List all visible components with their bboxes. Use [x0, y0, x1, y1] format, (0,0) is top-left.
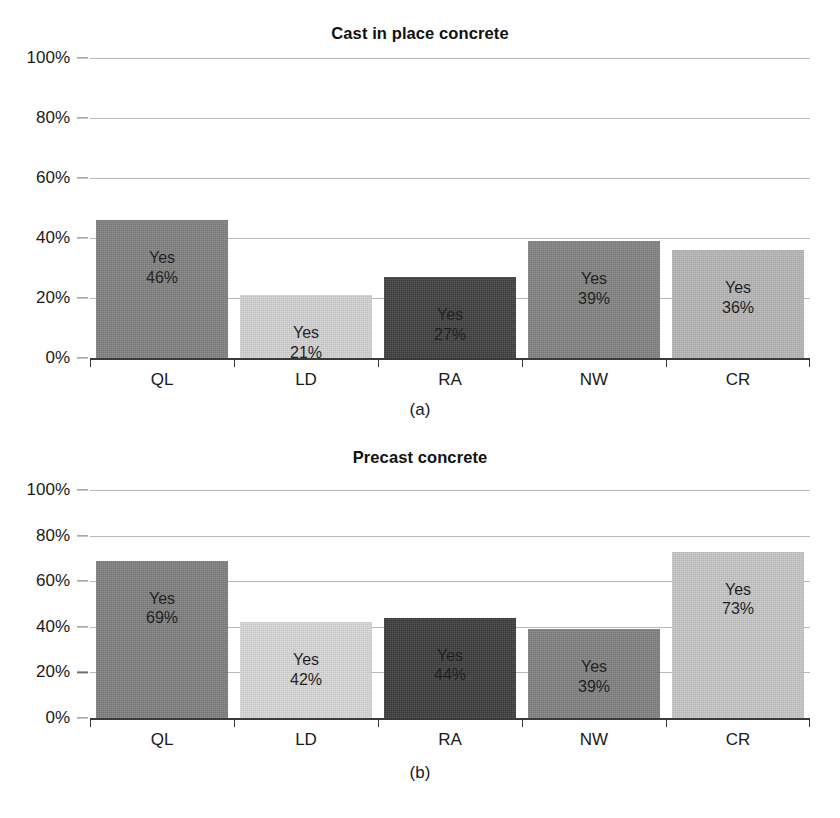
- bar-cr[interactable]: Yes73%: [672, 552, 804, 718]
- bar-label-line1: Yes: [96, 248, 228, 268]
- x-tick-mark: [234, 358, 235, 367]
- bar-value-label: Yes39%: [528, 657, 660, 696]
- bar-value-label: Yes42%: [240, 650, 372, 689]
- x-tick-mark: [234, 718, 235, 727]
- x-tick-mark: [522, 358, 523, 367]
- bar-slot-ld: Yes42%: [234, 490, 378, 718]
- panel-caption-a: (a): [0, 400, 840, 420]
- x-category-labels-a: QLLDRANWCR: [90, 370, 810, 390]
- panel-caption-b: (b): [0, 763, 840, 783]
- plot-area-b: 0%20%40%60%80%100% Yes69%Yes42%Yes44%Yes…: [90, 490, 810, 718]
- bar-ld[interactable]: Yes21%: [240, 295, 372, 358]
- chart-title-a: Cast in place concrete: [0, 24, 840, 43]
- bar-label-line1: Yes: [240, 323, 372, 343]
- x-axis-b: [90, 718, 810, 720]
- y-tick-mark: [77, 489, 88, 490]
- bar-slot-cr: Yes36%: [666, 58, 810, 358]
- y-tick-label: 100%: [0, 480, 70, 500]
- y-tick-mark: [77, 297, 88, 298]
- bar-label-line2: 39%: [528, 677, 660, 697]
- y-tick-label: 80%: [0, 526, 70, 546]
- x-tick-mark: [90, 358, 91, 367]
- y-tick-label: 20%: [0, 288, 70, 308]
- x-category-label-nw: NW: [522, 370, 666, 390]
- y-tick-mark: [77, 626, 88, 627]
- bar-label-line1: Yes: [96, 589, 228, 609]
- bar-slot-ql: Yes46%: [90, 58, 234, 358]
- y-tick-label: 60%: [0, 571, 70, 591]
- y-tick-label: 0%: [0, 708, 70, 728]
- bar-label-line2: 42%: [240, 670, 372, 690]
- y-tick-label: 60%: [0, 168, 70, 188]
- figure-two-bar-charts: Cast in place concrete 0%20%40%60%80%100…: [0, 0, 840, 818]
- y-tick-mark: [77, 717, 88, 718]
- bar-label-line2: 36%: [672, 298, 804, 318]
- bar-slot-ql: Yes69%: [90, 490, 234, 718]
- x-category-label-nw: NW: [522, 730, 666, 750]
- plot-area-a: 0%20%40%60%80%100% Yes46%Yes21%Yes27%Yes…: [90, 58, 810, 358]
- bar-value-label: Yes69%: [96, 589, 228, 628]
- bar-ql[interactable]: Yes46%: [96, 220, 228, 358]
- chart-panel-a: Cast in place concrete 0%20%40%60%80%100…: [0, 0, 840, 430]
- bar-slot-nw: Yes39%: [522, 58, 666, 358]
- bar-group-b: Yes69%Yes42%Yes44%Yes39%Yes73%: [90, 490, 810, 718]
- x-tick-mark: [809, 358, 810, 367]
- x-tick-mark: [522, 718, 523, 727]
- bar-label-line1: Yes: [528, 657, 660, 677]
- bar-label-line2: 69%: [96, 608, 228, 628]
- x-tick-mark: [809, 718, 810, 727]
- x-category-label-ld: LD: [234, 370, 378, 390]
- bar-ql[interactable]: Yes69%: [96, 561, 228, 718]
- x-category-label-ld: LD: [234, 730, 378, 750]
- bar-ld[interactable]: Yes42%: [240, 622, 372, 718]
- y-tick-mark: [77, 177, 88, 178]
- y-tick-label: 40%: [0, 617, 70, 637]
- x-category-label-ql: QL: [90, 370, 234, 390]
- bar-label-line2: 44%: [384, 665, 516, 685]
- y-tick-label: 80%: [0, 108, 70, 128]
- x-tick-mark: [378, 358, 379, 367]
- bar-value-label: Yes44%: [384, 646, 516, 685]
- y-tick-label: 20%: [0, 662, 70, 682]
- bar-label-line2: 39%: [528, 289, 660, 309]
- bar-nw[interactable]: Yes39%: [528, 629, 660, 718]
- x-category-label-cr: CR: [666, 370, 810, 390]
- x-category-label-cr: CR: [666, 730, 810, 750]
- bar-label-line1: Yes: [384, 305, 516, 325]
- bar-label-line1: Yes: [384, 646, 516, 666]
- x-tick-mark: [378, 718, 379, 727]
- bar-value-label: Yes39%: [528, 269, 660, 308]
- y-tick-label: 40%: [0, 228, 70, 248]
- bar-value-label: Yes27%: [384, 305, 516, 344]
- bar-slot-ra: Yes44%: [378, 490, 522, 718]
- x-category-labels-b: QLLDRANWCR: [90, 730, 810, 750]
- x-axis-a: [90, 358, 810, 360]
- bar-value-label: Yes46%: [96, 248, 228, 287]
- bar-slot-ld: Yes21%: [234, 58, 378, 358]
- bar-value-label: Yes73%: [672, 580, 804, 619]
- x-category-label-ra: RA: [378, 370, 522, 390]
- bar-ra[interactable]: Yes27%: [384, 277, 516, 358]
- x-tick-mark: [666, 358, 667, 367]
- bar-slot-cr: Yes73%: [666, 490, 810, 718]
- y-tick-mark: [77, 357, 88, 358]
- bar-value-label: Yes36%: [672, 278, 804, 317]
- y-tick-mark: [77, 117, 88, 118]
- bar-cr[interactable]: Yes36%: [672, 250, 804, 358]
- x-category-label-ra: RA: [378, 730, 522, 750]
- bar-nw[interactable]: Yes39%: [528, 241, 660, 358]
- bar-label-line1: Yes: [672, 278, 804, 298]
- y-tick-mark: [77, 581, 88, 582]
- y-tick-mark: [77, 672, 88, 673]
- bar-label-line2: 73%: [672, 599, 804, 619]
- chart-title-b: Precast concrete: [0, 448, 840, 467]
- y-tick-label: 100%: [0, 48, 70, 68]
- bar-label-line1: Yes: [528, 269, 660, 289]
- bar-label-line1: Yes: [240, 650, 372, 670]
- y-tick-label: 0%: [0, 348, 70, 368]
- bar-ra[interactable]: Yes44%: [384, 618, 516, 718]
- bar-slot-ra: Yes27%: [378, 58, 522, 358]
- y-tick-mark: [77, 535, 88, 536]
- bar-value-label: Yes21%: [240, 323, 372, 362]
- x-tick-mark: [666, 718, 667, 727]
